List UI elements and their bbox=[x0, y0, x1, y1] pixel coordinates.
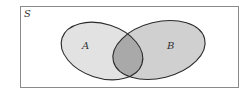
universe-label: S bbox=[24, 8, 31, 19]
set-b-label: B bbox=[166, 40, 174, 51]
set-a-label: A bbox=[81, 40, 89, 51]
venn-diagram: S A B bbox=[0, 0, 251, 91]
